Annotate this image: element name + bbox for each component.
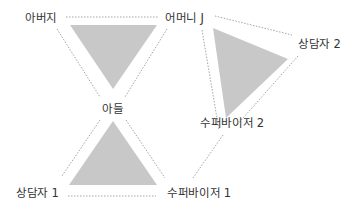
line-supervisor2-supervisor1 [193, 135, 223, 178]
diagram-canvas [0, 0, 362, 210]
label-supervisor1: 수퍼바이저 1 [167, 184, 231, 200]
label-supervisor2: 수퍼바이저 2 [200, 114, 264, 130]
label-mother: 어머니 J [165, 9, 204, 25]
counseling-triangle-1 [69, 121, 157, 185]
label-father: 아버지 [25, 9, 57, 25]
line-mother-counselor2 [215, 16, 292, 35]
label-counselor1: 상담자 1 [16, 184, 58, 200]
counseling-triangle-2 [213, 28, 288, 118]
label-son: 아들 [102, 100, 123, 116]
label-counselor2: 상담자 2 [298, 35, 340, 51]
family-triangle [70, 25, 157, 89]
